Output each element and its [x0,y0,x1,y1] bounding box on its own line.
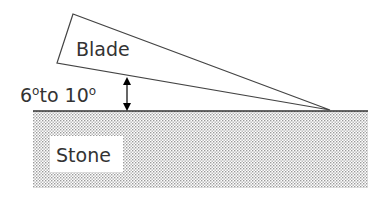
angle-indicator: 6oto 10o [20,77,131,111]
blade: Blade [57,14,330,110]
degree-symbol-1: o [32,84,39,98]
angle-label-start: 6 [20,84,32,106]
blade-label: Blade [76,38,130,60]
stone: Stone [33,111,368,188]
arrow-down-icon [123,103,131,111]
angle-label: 6oto 10o [20,84,96,106]
sharpening-angle-diagram: Stone Blade 6oto 10o [0,0,386,203]
blade-shape [57,14,330,110]
degree-symbol-2: o [89,84,96,98]
stone-label: Stone [56,144,111,166]
angle-label-mid: to 10 [39,84,88,106]
arrow-up-icon [123,77,131,85]
